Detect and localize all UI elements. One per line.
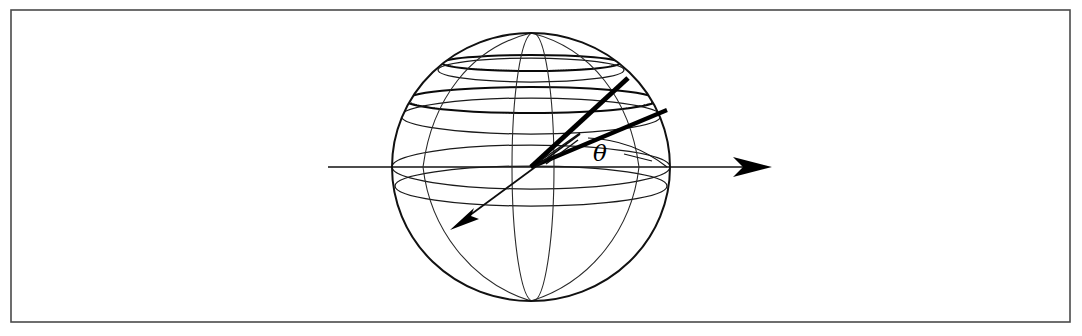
latitude-lower [395,166,667,206]
down-left-arrow [450,134,580,230]
theta-label: θ [593,140,607,166]
latitude-mid-back [405,87,657,113]
vector-to-upper-band [531,78,628,167]
angle-annotation: θ [588,138,667,167]
sphere-diagram: θ [0,0,1082,336]
figure-root: θ [0,0,1082,336]
